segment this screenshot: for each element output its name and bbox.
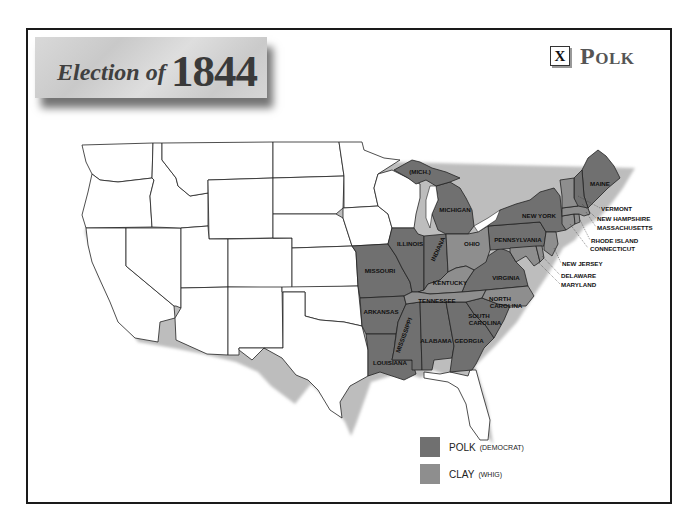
label-missouri: MISSOURI bbox=[365, 267, 396, 274]
legend-candidate: CLAY bbox=[449, 469, 474, 480]
label-south-carolina-2: CAROLINA bbox=[469, 319, 502, 326]
label-michigan: MICHIGAN bbox=[439, 206, 471, 213]
label-massachusetts: MASSACHUSETTS bbox=[597, 224, 653, 231]
legend-party: (DEMOCRAT) bbox=[480, 444, 524, 451]
label-south-carolina-1: SOUTH bbox=[468, 312, 490, 319]
label-vermont: VERMONT bbox=[601, 205, 632, 212]
label-rhode-island: RHODE ISLAND bbox=[591, 237, 639, 244]
label-louisiana: LOUISIANA bbox=[373, 359, 408, 366]
us-map: (MICH.) MICHIGAN ILLINOIS INDIANA OHIO M… bbox=[0, 0, 699, 529]
label-virginia: VIRGINIA bbox=[492, 274, 520, 281]
label-north-carolina-2: CAROLINA bbox=[490, 302, 523, 309]
legend-item-polk: POLK (DEMOCRAT) bbox=[420, 437, 524, 457]
label-maryland: MARYLAND bbox=[561, 281, 597, 288]
legend-swatch-polk bbox=[420, 437, 440, 457]
state-rhode-island bbox=[574, 214, 580, 224]
legend-swatch-clay bbox=[420, 464, 440, 484]
legend: POLK (DEMOCRAT) CLAY (WHIG) bbox=[420, 437, 524, 491]
label-mich-up: (MICH.) bbox=[409, 168, 431, 175]
label-north-carolina-1: NORTH bbox=[489, 295, 512, 302]
label-ohio: OHIO bbox=[464, 240, 480, 247]
label-new-jersey: NEW JERSEY bbox=[562, 260, 603, 267]
label-kentucky: KENTUCKY bbox=[433, 279, 468, 286]
label-georgia: GEORGIA bbox=[454, 337, 484, 344]
label-tennessee: TENNESSEE bbox=[418, 297, 455, 304]
legend-party: (WHIG) bbox=[478, 471, 502, 478]
label-maine: MAINE bbox=[590, 180, 610, 187]
label-alabama: ALABAMA bbox=[420, 337, 452, 344]
label-illinois: ILLINOIS bbox=[397, 240, 423, 247]
label-pennsylvania: PENNSYLVANIA bbox=[494, 236, 542, 243]
legend-item-clay: CLAY (WHIG) bbox=[420, 464, 524, 484]
label-arkansas: ARKANSAS bbox=[363, 308, 398, 315]
legend-candidate: POLK bbox=[449, 442, 476, 453]
label-connecticut: CONNECTICUT bbox=[590, 245, 635, 252]
label-new-hampshire: NEW HAMPSHIRE bbox=[597, 215, 650, 222]
label-new-york: NEW YORK bbox=[522, 212, 556, 219]
label-delaware: DELAWARE bbox=[561, 272, 596, 279]
